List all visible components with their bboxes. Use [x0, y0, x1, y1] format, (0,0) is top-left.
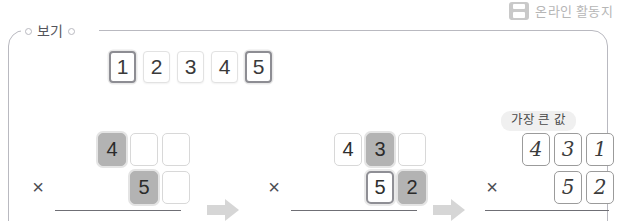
calc-1-answers: 53 43 [25, 217, 190, 221]
number-card-row: 1 2 3 4 5 [109, 51, 272, 83]
calc-2-bottom-cell-2[interactable]: 2 [398, 171, 426, 204]
calc-3-top-cell-1[interactable]: 4 [522, 133, 550, 166]
calc-1-top-cell-1[interactable]: 4 [98, 133, 126, 166]
multiplication-group-3: 가장 큰 값 4 3 1 × 5 2 22412 [479, 131, 614, 221]
calc-3-bottom-cell-1[interactable]: 5 [554, 171, 582, 204]
calc-1-top-row: 4 [25, 131, 190, 167]
multiply-operator-2: × [261, 177, 287, 197]
multiplication-group-2: 4 3 × 5 2 420 430 [261, 131, 426, 221]
calc-1-top-cell-2[interactable] [130, 133, 158, 166]
calc-1-bottom-cell-1[interactable]: 5 [130, 171, 158, 204]
example-panel: 보기 1 2 3 4 5 4 × 5 53 43 [8, 30, 608, 221]
flow-arrow-2-icon [433, 199, 467, 221]
panel-legend: 보기 [23, 21, 77, 41]
number-card-2[interactable]: 2 [143, 51, 170, 83]
calc-2-top-cell-1[interactable]: 4 [334, 133, 362, 166]
calc-2-bottom-cell-1[interactable]: 5 [366, 171, 394, 204]
calc-2-top-row: 4 3 [261, 131, 426, 167]
calc-2-answer-2: 430 [381, 217, 426, 221]
calc-2-rule [291, 210, 417, 211]
calc-1-answer-1: 53 [39, 217, 69, 221]
legend-dot-right [68, 28, 75, 35]
calc-2-top-cell-2[interactable]: 3 [366, 133, 394, 166]
multiplication-group-1: 4 × 5 53 43 [25, 131, 190, 221]
legend-label: 보기 [37, 24, 63, 38]
calc-1-answer-2: 43 [160, 217, 190, 221]
calc-1-rule [55, 210, 181, 211]
calc-2-answer-1: 420 [275, 217, 320, 221]
multiply-operator-1: × [25, 177, 51, 197]
calc-3-bottom-cell-2[interactable]: 2 [586, 171, 614, 204]
online-worksheet-label: 온라인 활동지 [535, 5, 613, 18]
online-worksheet-badge[interactable]: 온라인 활동지 [509, 2, 613, 20]
calc-3-top-row: 4 3 1 [479, 131, 614, 167]
calc-3-top-cell-2[interactable]: 3 [554, 133, 582, 166]
calc-2-answers: 420 430 [261, 217, 426, 221]
calc-2-bottom-row: × 5 2 [261, 169, 426, 205]
calc-3-answer-1: 22412 [530, 217, 612, 221]
printer-icon [509, 2, 529, 20]
flow-arrow-1-icon [207, 199, 241, 221]
multiply-operator-3: × [479, 177, 505, 197]
legend-dot-left [25, 28, 32, 35]
calc-2-top-cell-3[interactable] [398, 133, 426, 166]
calc-3-bottom-row: × 5 2 [479, 169, 614, 205]
calc-3-rule [485, 210, 609, 211]
calc-2: 4 3 × 5 2 420 430 [261, 131, 426, 221]
largest-value-label: 가장 큰 값 [501, 111, 576, 131]
calc-3-top-cell-3[interactable]: 1 [586, 133, 614, 166]
calc-1-bottom-cell-2[interactable] [162, 171, 190, 204]
calc-1: 4 × 5 53 43 [25, 131, 190, 221]
number-card-3[interactable]: 3 [177, 51, 204, 83]
number-card-5[interactable]: 5 [245, 51, 272, 83]
calc-3-answers: 22412 [479, 217, 614, 221]
number-card-4[interactable]: 4 [211, 51, 238, 83]
calc-3: 4 3 1 × 5 2 22412 [479, 131, 614, 221]
number-card-1[interactable]: 1 [109, 51, 136, 83]
calc-1-bottom-row: × 5 [25, 169, 190, 205]
calc-1-top-cell-3[interactable] [162, 133, 190, 166]
